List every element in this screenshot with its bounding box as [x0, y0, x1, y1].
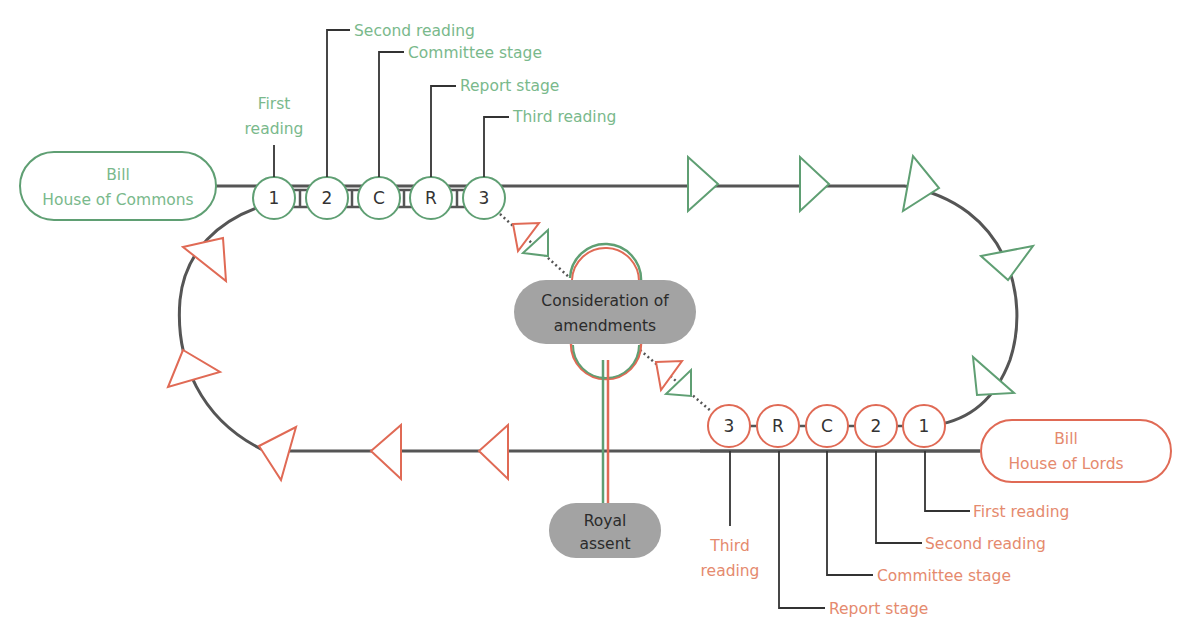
arrow-right-icon — [688, 157, 718, 211]
lords-committee-stage-label: Committee stage — [877, 567, 1011, 585]
stage-symbol: 3 — [479, 188, 490, 208]
lords-third-reading-l2: reading — [701, 562, 760, 580]
lords-box-line2: House of Lords — [1008, 455, 1123, 473]
arrow-up-icon — [183, 238, 226, 281]
lords-stage-2: 2 — [855, 405, 897, 447]
commons-stage-1: 1 — [253, 177, 295, 219]
commons-box-line1: Bill — [106, 166, 130, 184]
royal-assent-connector — [603, 360, 608, 505]
arrow-right-icon — [903, 156, 939, 211]
arrow-left-icon — [479, 425, 508, 479]
stage-symbol: 2 — [322, 188, 333, 208]
legislative-process-diagram: Bill House of Commons 1 2 C R 3 — [0, 0, 1183, 639]
stage-symbol: 3 — [724, 416, 735, 436]
consideration-line2: amendments — [554, 317, 656, 335]
commons-second-reading-label: Second reading — [354, 22, 475, 40]
commons-stage-c: C — [358, 177, 400, 219]
stage-symbol: R — [772, 416, 784, 436]
commons-third-reading-label: Third reading — [512, 108, 616, 126]
lords-report-stage-label: Report stage — [829, 600, 928, 618]
stage-symbol: 2 — [871, 416, 882, 436]
arrow-left-icon — [259, 427, 296, 480]
commons-report-stage-label: Report stage — [460, 77, 559, 95]
commons-stage-3: 3 — [463, 177, 505, 219]
arrow-left-icon — [371, 425, 401, 479]
lords-direction-arrows — [168, 238, 508, 480]
lords-stage-1: 1 — [903, 405, 945, 447]
consideration-line1: Consideration of — [541, 292, 669, 310]
lords-stage-3: 3 — [708, 405, 750, 447]
stage-symbol: C — [821, 416, 833, 436]
consideration-of-amendments-pill: Consideration of amendments — [514, 280, 696, 344]
commons-stages: 1 2 C R 3 — [253, 177, 505, 219]
arrow-right-icon — [800, 157, 829, 211]
royal-assent-line1: Royal — [584, 512, 627, 530]
commons-box-line2: House of Commons — [42, 191, 193, 209]
lords-stage-c: C — [806, 405, 848, 447]
commons-start-box: Bill House of Commons — [20, 152, 216, 220]
lords-third-reading-l1: Third — [709, 537, 750, 555]
lords-first-reading-label: First reading — [973, 503, 1069, 521]
commons-direction-arrows — [688, 156, 1033, 395]
arrow-down-icon — [981, 246, 1033, 280]
lords-start-box: Bill House of Lords — [981, 420, 1171, 482]
lords-stage-r: R — [757, 405, 799, 447]
stage-symbol: 1 — [919, 416, 930, 436]
stage-symbol: 1 — [269, 188, 280, 208]
commons-first-reading-l2: reading — [245, 120, 304, 138]
lords-second-reading-label: Second reading — [925, 535, 1046, 553]
royal-assent-line2: assent — [579, 535, 630, 553]
lords-stages: 3 R C 2 1 — [708, 405, 945, 447]
commons-first-reading-l1: First — [258, 95, 291, 113]
commons-stage-r: R — [410, 177, 452, 219]
stage-symbol: C — [373, 188, 385, 208]
commons-stage-2: 2 — [306, 177, 348, 219]
lords-box-line1: Bill — [1054, 430, 1078, 448]
stage-symbol: R — [425, 188, 437, 208]
commons-committee-stage-label: Committee stage — [408, 44, 542, 62]
lords-labels: Third reading Report stage Committee sta… — [701, 503, 1070, 618]
royal-assent-pill: Royal assent — [549, 503, 661, 558]
